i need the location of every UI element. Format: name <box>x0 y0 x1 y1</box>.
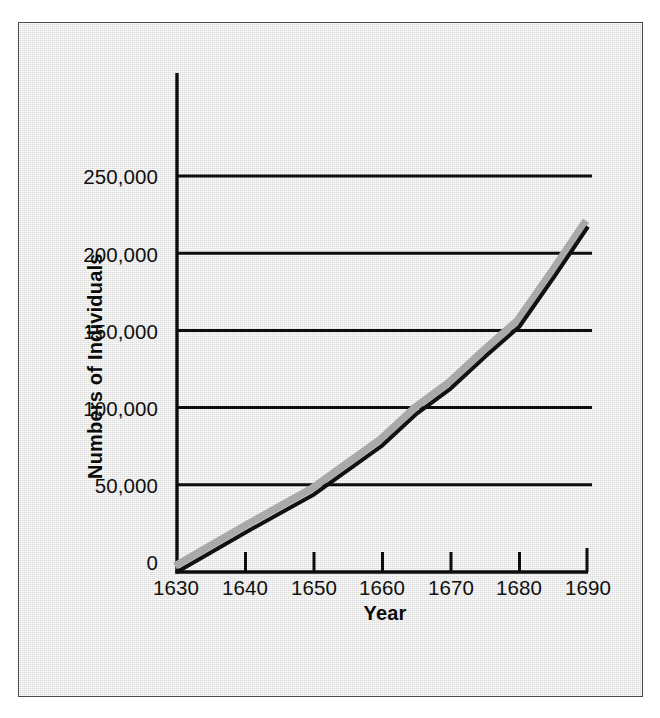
xtick-label-1650: 1650 <box>275 576 353 600</box>
ytick-label-0: 0 <box>40 551 158 575</box>
xtick-label-1630: 1630 <box>137 576 215 600</box>
xtick-label-1670: 1670 <box>412 576 490 600</box>
ytick-label-250000: 250,000 <box>40 165 158 189</box>
y-axis-title: Numbers of Individuals <box>84 253 107 479</box>
xtick-label-1690: 1690 <box>549 576 627 600</box>
xtick-label-1680: 1680 <box>480 576 558 600</box>
xtick-label-1660: 1660 <box>343 576 421 600</box>
x-axis-title: Year <box>305 602 465 625</box>
chart-figure: 0 50,000 100,000 150,000 200,000 250,000… <box>0 0 660 718</box>
xtick-label-1640: 1640 <box>206 576 284 600</box>
